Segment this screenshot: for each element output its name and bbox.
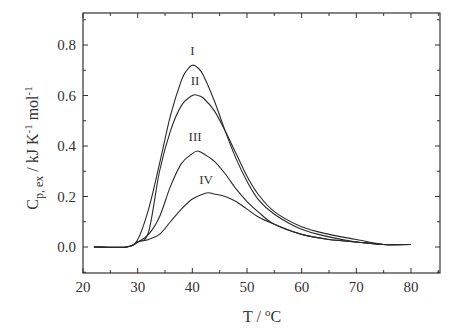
y-tick-label: 0.4 [57,138,76,154]
y-tick-label: 0.2 [57,189,76,205]
x-tick-label: 80 [404,279,419,295]
x-axis-title: T / oC [243,306,281,325]
y-axis: 0.00.20.40.60.8 [57,20,440,273]
plot-frame [83,13,440,273]
x-axis: 20304050607080 [76,13,439,295]
curves [94,65,411,247]
curve-III [94,151,411,247]
curve-I [94,65,411,247]
curve-label: II [191,73,200,88]
y-tick-label: 0.0 [57,239,76,255]
curve-label: I [190,43,194,58]
curve-label: III [189,129,202,144]
x-tick-label: 20 [76,279,91,295]
x-tick-label: 30 [130,279,145,295]
x-tick-label: 60 [294,279,309,295]
x-tick-label: 70 [349,279,364,295]
curve-IV [94,193,411,248]
y-tick-label: 0.6 [57,88,76,104]
x-tick-label: 50 [240,279,255,295]
y-tick-label: 0.8 [57,37,76,53]
x-tick-label: 40 [185,279,200,295]
curve-II [94,95,411,248]
chart: 20304050607080 0.00.20.40.60.8 IIIIIIIV … [0,0,461,332]
y-axis-title: Cp, ex / kJ K-1 mol-1 [22,86,46,209]
curve-label: IV [199,172,213,187]
